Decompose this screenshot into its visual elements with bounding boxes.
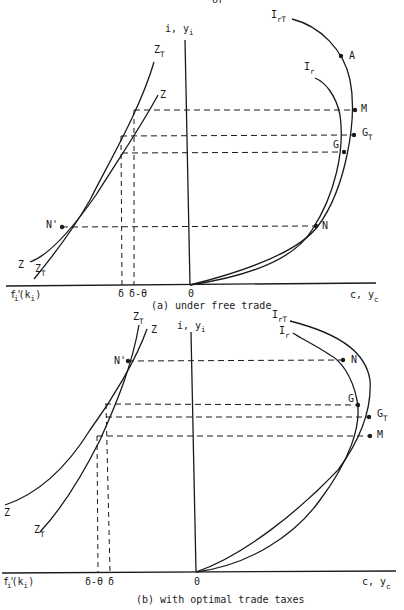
label-Z-bottom-b: Z xyxy=(4,507,10,518)
dashed-G-a xyxy=(122,152,344,153)
label-A-a: A xyxy=(349,50,355,61)
caption-b: (b) with optimal trade taxes xyxy=(136,594,305,605)
point-N-prime-b xyxy=(126,359,130,363)
label-M-a: M xyxy=(361,103,367,114)
label-G-a: G xyxy=(333,139,339,150)
x-axis-right-label-b: c, yc xyxy=(362,576,391,591)
x-axis-left-label-b: f'i(ki) xyxy=(3,576,34,590)
dashed-delta-b xyxy=(106,404,110,572)
dashed-G-b xyxy=(105,404,358,405)
point-N-prime-a xyxy=(60,225,64,229)
dashed-delta-a xyxy=(121,136,122,285)
panel-a: i, yi A M GT G N N' IrT Ir ZT xyxy=(6,9,379,311)
label-I-rT-a: IrT xyxy=(271,9,287,24)
point-GT-b xyxy=(367,415,371,419)
label-G-b: G xyxy=(348,393,354,404)
label-N-a: N xyxy=(322,220,328,231)
label-Z-T-top-b: ZT xyxy=(133,311,144,326)
label-N-prime-b: N' xyxy=(114,355,126,366)
label-GT-a: GT xyxy=(362,127,373,142)
label-I-rT-b: IrT xyxy=(272,309,288,324)
label-Z-T-top-a: ZT xyxy=(154,44,165,59)
label-M-b: M xyxy=(377,429,383,440)
caption-a: (a) under free trade xyxy=(151,300,271,311)
label-Z-T-bottom-b: ZT xyxy=(34,524,45,539)
curve-Z-T-a xyxy=(34,62,154,279)
point-N-b xyxy=(341,358,345,362)
curve-I-r-a xyxy=(190,78,341,285)
label-N-b: N xyxy=(351,354,357,365)
x-axis-right-label-a: c, yc xyxy=(350,289,379,304)
y-axis-label-b: i, yi xyxy=(177,320,206,334)
point-GT-a xyxy=(352,133,356,137)
header-fragment: or xyxy=(212,0,224,5)
x-axis-left-label-a: f'i(ki) xyxy=(10,289,41,303)
label-Z-top-b: Z xyxy=(151,324,157,335)
tick-delta-theta-a: δ-θ xyxy=(129,288,147,299)
point-G-b xyxy=(356,403,360,407)
label-Z-bottom-a: Z xyxy=(18,259,24,270)
figure-canvas: or i, yi A M GT G N N' xyxy=(0,0,404,610)
dashed-delta-theta-b xyxy=(97,436,98,572)
point-M-b xyxy=(368,434,372,438)
label-Z-top-a: Z xyxy=(160,89,166,100)
label-GT-b: GT xyxy=(377,408,388,423)
y-axis-b xyxy=(191,332,196,572)
origin-label-b: 0 xyxy=(194,576,200,587)
panel-b: i, yi N N' G GT M IrT Ir ZT Z Z xyxy=(2,309,396,605)
tick-delta-theta-b: δ-θ xyxy=(85,576,103,587)
curve-Z-a xyxy=(30,95,158,262)
dashed-N-b xyxy=(128,360,343,361)
y-axis-label-a: i, yi xyxy=(165,23,194,37)
label-I-r-a: Ir xyxy=(304,61,315,76)
tick-delta-a: δ xyxy=(118,288,124,299)
label-N-prime-a: N' xyxy=(46,219,58,230)
label-I-r-b: Ir xyxy=(279,325,290,340)
dashed-GT-a xyxy=(121,135,352,136)
tick-delta-b: δ xyxy=(108,576,114,587)
origin-label-a: 0 xyxy=(188,288,194,299)
y-axis-a xyxy=(185,40,190,285)
curve-I-r-b xyxy=(196,333,358,572)
point-G-a xyxy=(342,150,346,154)
point-M-a xyxy=(353,108,357,112)
point-A-a xyxy=(339,54,343,58)
point-N-a xyxy=(314,224,318,228)
